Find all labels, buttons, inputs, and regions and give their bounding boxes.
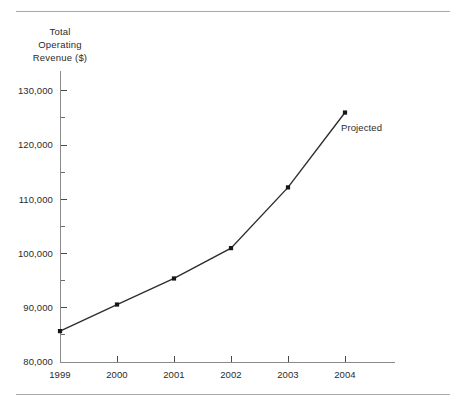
y-axis-tick-label: 100,000: [18, 248, 53, 259]
x-axis-tick-label: 2004: [334, 369, 356, 380]
revenue-series-markers: [58, 110, 347, 333]
y-axis-tick-label: 120,000: [18, 139, 53, 150]
y-axis-tick-label: 90,000: [23, 302, 53, 313]
x-axis-tick-label: 2003: [277, 369, 299, 380]
projected-annotation-label: Projected: [341, 122, 382, 133]
x-axis-tick-label: 2001: [163, 369, 185, 380]
data-point-marker: [286, 185, 290, 189]
chart-annotation-group: Projected: [341, 122, 382, 133]
x-axis-tick-label: 2000: [106, 369, 128, 380]
data-point-marker: [343, 110, 347, 114]
revenue-series-line: [60, 113, 345, 332]
y-axis-tick-label: 130,000: [18, 85, 53, 96]
y-axis-tick-label: 110,000: [19, 194, 53, 205]
x-axis-tick-label: 2002: [220, 369, 242, 380]
line-chart-plot: 80,00090,000100,000110,000120,000130,000…: [0, 0, 457, 407]
data-point-marker: [229, 246, 233, 250]
chart-page: Total Operating Revenue ($) 80,00090,000…: [0, 0, 457, 407]
data-point-marker: [115, 302, 119, 306]
x-axis-tick-label: 1999: [49, 369, 71, 380]
y-axis-tick-label: 80,000: [23, 356, 53, 367]
data-point-marker: [58, 329, 62, 333]
x-axis-tick-group: 199920002001200220032004: [49, 356, 356, 380]
data-point-marker: [172, 276, 176, 280]
